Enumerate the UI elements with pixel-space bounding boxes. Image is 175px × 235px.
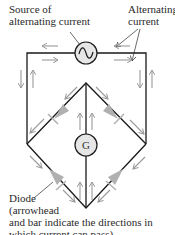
galvanometer-label: G (82, 139, 90, 151)
diode-label-line4: which current can pass) (9, 228, 113, 235)
diode-lower-right (106, 169, 123, 190)
diode-upper-right (103, 104, 124, 124)
galvanometer: G (75, 134, 97, 156)
wires (27, 53, 146, 208)
alt-pointer-line-2 (132, 29, 140, 61)
source-pointer-line (70, 32, 80, 45)
diode-lower-left (49, 169, 66, 190)
diode-label-line2: (arrowhead (9, 204, 59, 216)
diode-upper-left (48, 104, 69, 124)
diode-label-line3: and bar indicate the directions in (9, 216, 153, 228)
diode-pointer-line (34, 182, 53, 198)
alt-pointer-line-1 (116, 29, 138, 47)
ac-source (75, 42, 97, 64)
diode-label-line1: Diode (9, 192, 36, 204)
